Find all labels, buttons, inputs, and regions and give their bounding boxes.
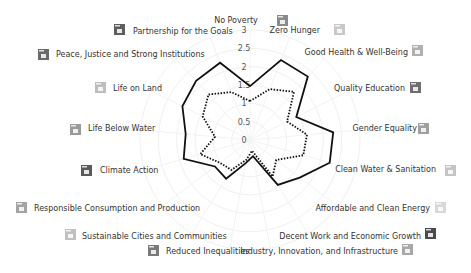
sdg-icon [114,24,125,35]
sdg-icon [435,202,446,213]
tick-label: 2.5 [238,44,251,53]
grid-spoke [250,59,324,140]
radar-grid [140,30,360,250]
category-label: Affordable and Clean Energy [315,204,430,213]
category-label: Sustainable Cities and Communities [82,232,227,241]
category-label: Reduced Inequalities [166,247,250,256]
sdg-icon [81,165,92,176]
category-label: Gender Equality [353,124,418,133]
sdg-icon [70,124,81,135]
category-label: Zero Hunger [270,26,321,35]
data-series [182,60,333,185]
category-label: Responsible Consumption and Production [34,204,200,213]
category-label: Decent Work and Economic Growth [279,232,421,241]
category-label: Peace, Justice and Strong Institutions [56,50,205,59]
tick-label: 0 [241,136,246,145]
sdg-icon [425,228,436,239]
sdg-icon [418,123,429,134]
sdg-icon [95,82,106,93]
tick-label: 1 [241,99,246,108]
tick-label: 2 [241,63,246,72]
sdg-icon [412,45,423,56]
sdg-icon [410,82,421,93]
sdg-icon [334,24,345,35]
category-label: Partnership for the Goals [133,27,233,36]
category-label: Industry, Innovation, and Infrastructure [240,247,398,256]
series-solid-polygon [182,60,333,185]
category-label: No Poverty [214,16,258,25]
sdg-icon [16,202,27,213]
tick-label: 3 [241,26,246,35]
sdg-icon [277,15,288,26]
series-dotted-polygon [200,89,307,176]
sdg-icon [65,229,76,240]
sdg-icon [402,244,413,255]
grid-spoke [162,140,250,206]
tick-label: 0.5 [238,118,251,127]
sdg-icon [38,49,49,60]
category-label: Life on Land [113,84,162,93]
sdg-icon [148,245,159,256]
category-label: Life Below Water [88,124,156,133]
grid-spoke [250,140,338,206]
sdg-icon [445,165,456,176]
radar-chart: 00.511.522.53 No PovertyZero HungerGood … [0,0,471,273]
category-labels: No PovertyZero HungerGood Health & Well-… [16,15,456,256]
category-label: Clean Water & Sanitation [335,165,436,174]
category-label: Good Health & Well-Being [305,48,408,57]
category-label: Quality Education [334,84,405,93]
category-label: Climate Action [100,166,158,175]
